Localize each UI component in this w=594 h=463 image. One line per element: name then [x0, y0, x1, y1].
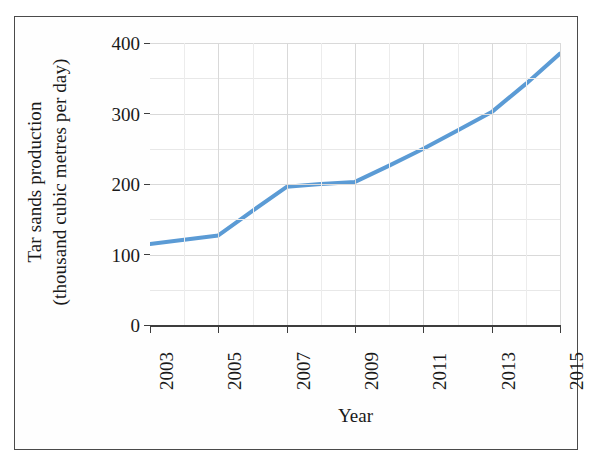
- x-tick-label-2003: 2003: [157, 352, 176, 390]
- gridline-x-2009: [355, 43, 356, 325]
- x-tick-mark-2011: [423, 326, 424, 333]
- x-tick-mark-2007: [287, 326, 288, 333]
- x-tick-mark-2003: [150, 326, 151, 333]
- x-tick-mark-2009: [355, 326, 356, 333]
- x-tick-label-2013: 2013: [499, 352, 518, 390]
- gridline-x-2014: [526, 43, 527, 325]
- gridline-x-2011: [423, 43, 424, 325]
- x-tick-label-2015: 2015: [567, 352, 586, 390]
- gridline-x-2007: [287, 43, 288, 325]
- plot-area: [150, 43, 560, 325]
- y-tick-label-200: 200: [80, 175, 140, 194]
- gridline-x-2005: [218, 43, 219, 325]
- y-tick-label-300: 300: [80, 105, 140, 124]
- x-tick-label-2005: 2005: [225, 352, 244, 390]
- y-tick-label-400: 400: [80, 34, 140, 53]
- x-tick-label-2009: 2009: [362, 352, 381, 390]
- gridline-x-2010: [389, 43, 390, 325]
- x-tick-mark-2013: [492, 326, 493, 333]
- x-tick-label-2007: 2007: [294, 352, 313, 390]
- x-tick-mark-2005: [218, 326, 219, 333]
- x-axis-title: Year: [150, 405, 561, 427]
- y-axis-tick-labels: 400 300 200 100 0: [78, 0, 140, 400]
- gridline-x-2004: [184, 43, 185, 325]
- gridline-x-2012: [458, 43, 459, 325]
- gridline-x-2008: [321, 43, 322, 325]
- gridline-x-2015: [560, 43, 561, 325]
- x-tick-mark-2015: [560, 326, 561, 333]
- x-tick-label-2011: 2011: [430, 353, 449, 390]
- y-tick-label-0: 0: [80, 316, 140, 335]
- gridline-x-2006: [253, 43, 254, 325]
- gridline-x-2013: [492, 43, 493, 325]
- plot-area-wrapper: [150, 43, 560, 325]
- y-tick-label-100: 100: [80, 246, 140, 265]
